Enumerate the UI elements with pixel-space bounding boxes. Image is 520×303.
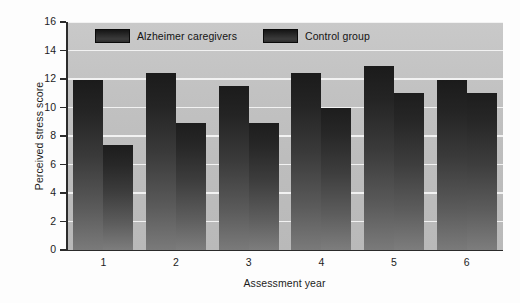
bar-control-group-year-2 <box>176 123 206 250</box>
y-tick-label: 8 <box>30 129 56 141</box>
bar-alzheimer-caregivers-year-1 <box>73 80 103 250</box>
y-tick-label: 14 <box>30 44 56 56</box>
y-tick-label: 16 <box>30 15 56 27</box>
y-tick-label: 0 <box>30 243 56 255</box>
x-tick-label: 4 <box>306 256 336 268</box>
x-tick-label: 3 <box>234 256 264 268</box>
x-tick-label: 6 <box>452 256 482 268</box>
legend-label: Alzheimer caregivers <box>137 30 237 42</box>
y-tick-label: 12 <box>30 72 56 84</box>
x-tick-label: 1 <box>88 256 118 268</box>
bar-alzheimer-caregivers-year-3 <box>219 86 249 250</box>
legend-swatch-icon <box>95 29 130 43</box>
y-tick-label: 10 <box>30 101 56 113</box>
plot-area <box>67 22 503 250</box>
x-axis-line <box>66 250 503 252</box>
bar-alzheimer-caregivers-year-2 <box>146 73 176 250</box>
y-tick-label: 6 <box>30 158 56 170</box>
bar-control-group-year-5 <box>394 93 424 250</box>
x-axis-title: Assessment year <box>67 277 502 289</box>
bar-chart-figure: Perceived stress score Assessment year 0… <box>0 0 520 303</box>
bar-alzheimer-caregivers-year-5 <box>364 66 394 250</box>
bar-control-group-year-1 <box>103 145 133 250</box>
y-axis-line <box>66 22 68 251</box>
bar-control-group-year-6 <box>467 93 497 250</box>
legend-label: Control group <box>305 30 370 42</box>
y-tick-label: 2 <box>30 215 56 227</box>
gridline <box>67 22 503 23</box>
legend-item-control-group: Control group <box>263 29 370 43</box>
bar-control-group-year-4 <box>321 108 351 251</box>
y-tick-label: 4 <box>30 186 56 198</box>
x-tick-label: 2 <box>161 256 191 268</box>
bar-alzheimer-caregivers-year-6 <box>437 80 467 250</box>
gridline <box>67 50 503 52</box>
bar-alzheimer-caregivers-year-4 <box>291 73 321 250</box>
legend-item-alzheimer-caregivers: Alzheimer caregivers <box>95 29 237 43</box>
legend-swatch-icon <box>263 29 298 43</box>
x-tick-label: 5 <box>379 256 409 268</box>
bar-control-group-year-3 <box>249 123 279 250</box>
